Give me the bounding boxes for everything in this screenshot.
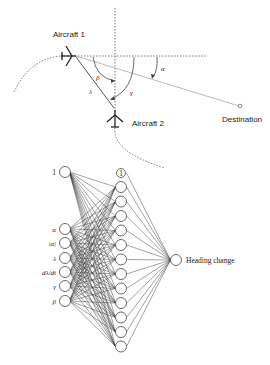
input-node: γ	[53, 281, 70, 292]
gamma-label: γ	[130, 89, 133, 97]
aircraft2-trajectory	[115, 128, 165, 168]
input-label: |α|	[48, 240, 56, 248]
aircraft1-label: Aircraft 1	[53, 30, 86, 39]
hidden-node	[116, 225, 127, 236]
hidden-node	[116, 196, 127, 207]
aircraft2-label: Aircraft 2	[132, 119, 165, 128]
aircraft2-icon	[107, 110, 123, 127]
input-node: 1	[52, 167, 70, 178]
input-label: λ	[52, 255, 56, 263]
output-label: Heading change	[186, 256, 235, 265]
hidden-node	[116, 327, 127, 338]
input-node: β	[52, 296, 71, 307]
beta-label: β	[95, 74, 100, 82]
input-node: dλ/dt	[42, 267, 70, 278]
hidden-node	[116, 283, 127, 294]
gamma-arrow-icon	[110, 96, 115, 100]
input-node: λ	[52, 253, 71, 264]
destination-label: Destination	[222, 115, 262, 124]
input-label: β	[52, 298, 57, 306]
hidden-bias-label: 1	[119, 169, 123, 178]
aircraft1-icon	[61, 46, 76, 66]
input-label: α	[52, 226, 56, 234]
destination-marker	[238, 104, 242, 108]
input-label: γ	[53, 283, 56, 291]
alpha-arc	[153, 57, 157, 77]
geometry-diagram: Aircraft 1 Aircraft 2 Destination α β γ …	[14, 8, 262, 168]
hidden-node	[116, 182, 127, 193]
beta-arrow-icon	[111, 79, 115, 83]
figure-canvas: Aircraft 1 Aircraft 2 Destination α β γ …	[0, 0, 270, 365]
input-node: α	[52, 224, 70, 235]
input-label: 1	[52, 168, 56, 177]
hidden-node	[116, 211, 127, 222]
hidden-bias-node: 1	[117, 169, 126, 178]
hidden-node	[116, 240, 127, 251]
hidden-node	[116, 312, 127, 323]
input-label: dλ/dt	[42, 269, 57, 277]
alpha-label: α	[161, 65, 165, 73]
hidden-node	[116, 254, 127, 265]
aircraft1-trajectory	[14, 56, 62, 92]
hidden-node	[116, 341, 127, 352]
lambda-label: λ	[88, 88, 92, 96]
input-node: |α|	[48, 238, 70, 249]
hidden-node	[116, 269, 127, 280]
hidden-node	[116, 298, 127, 309]
output-node: Heading change	[171, 255, 236, 266]
